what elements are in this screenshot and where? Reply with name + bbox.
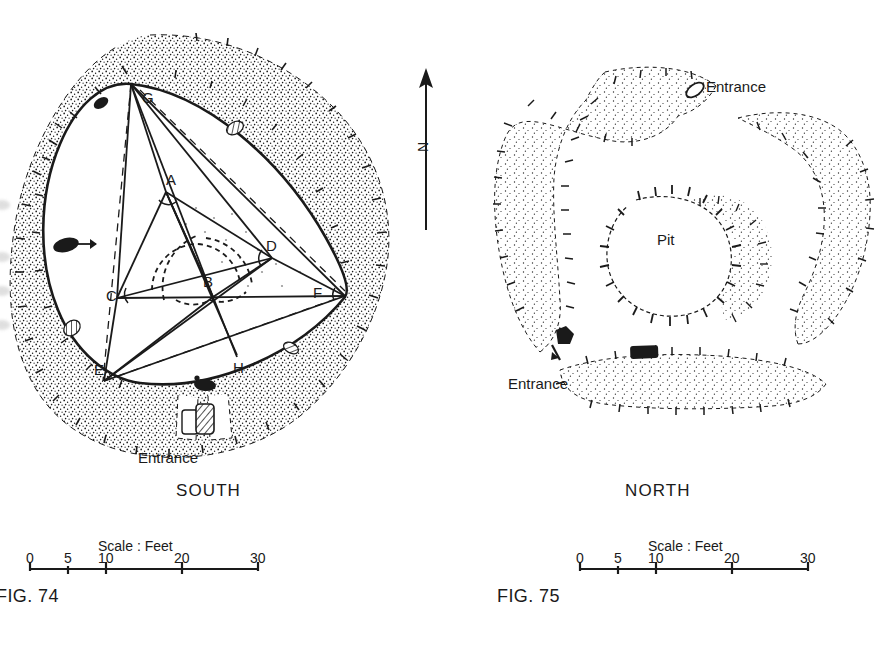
- north-entrance-label-sw: Entrance: [508, 376, 568, 391]
- point-label-g: G: [142, 90, 154, 105]
- point-label-e: E: [94, 362, 104, 377]
- point-label-h: H: [233, 360, 244, 375]
- point-label-d: D: [266, 238, 277, 253]
- figure-canvas: N A B C D E F G H Entrance SOUTH Scale :…: [0, 0, 885, 647]
- point-label-c: C: [106, 288, 117, 303]
- north-scale-tick-20: 20: [724, 551, 740, 565]
- north-caption: NORTH: [625, 482, 691, 499]
- north-scale-tick-0: 0: [576, 551, 584, 565]
- north-pit-label: Pit: [657, 232, 675, 247]
- north-scale-tick-30: 30: [800, 551, 816, 565]
- south-entrance-label: Entrance: [138, 450, 198, 465]
- south-scale-tick-30: 30: [250, 551, 266, 565]
- north-fig-label: FIG. 75: [497, 587, 560, 605]
- south-caption: SOUTH: [176, 482, 241, 499]
- north-entrance-label-ne: Entrance: [706, 79, 766, 94]
- north-scale-tick-5: 5: [614, 551, 622, 565]
- point-label-b: B: [203, 274, 213, 289]
- south-scale-tick-0: 0: [26, 551, 34, 565]
- south-scale-tick-5: 5: [64, 551, 72, 565]
- point-label-a: A: [166, 172, 176, 187]
- point-label-f: F: [313, 285, 322, 300]
- south-scale-tick-10: 10: [98, 551, 114, 565]
- south-fig-label: FIG. 74: [0, 587, 59, 605]
- south-scale-tick-20: 20: [174, 551, 190, 565]
- north-scale-tick-10: 10: [648, 551, 664, 565]
